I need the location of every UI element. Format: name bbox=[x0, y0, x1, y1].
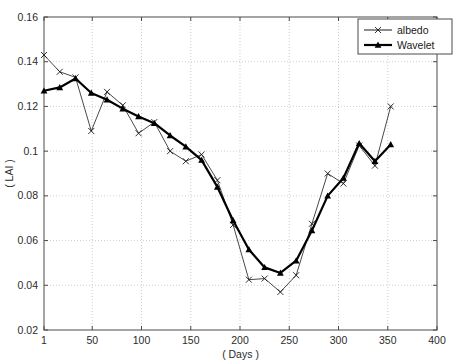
y-tick-label: 0.02 bbox=[18, 324, 39, 336]
legend-label-albedo: albedo bbox=[397, 24, 429, 36]
tick-labels: 1501001502002503003504000.020.040.060.08… bbox=[18, 11, 446, 347]
y-tick-label: 0.1 bbox=[23, 145, 38, 157]
y-tick-label: 0.06 bbox=[18, 234, 39, 246]
y-axis-title: ( LAI ) bbox=[3, 159, 15, 188]
x-tick-label: 400 bbox=[428, 334, 446, 346]
x-tick-label: 200 bbox=[231, 334, 249, 346]
axis-frame bbox=[44, 17, 437, 330]
chart-svg: 1501001502002503003504000.020.040.060.08… bbox=[0, 0, 457, 362]
x-axis-title: ( Days ) bbox=[222, 348, 259, 360]
y-tick-label: 0.04 bbox=[18, 279, 39, 291]
chart-figure: 1501001502002503003504000.020.040.060.08… bbox=[0, 0, 457, 362]
chart-legend: albedoWavelet bbox=[358, 19, 452, 54]
x-tick-label: 1 bbox=[41, 334, 47, 346]
series-albedo bbox=[41, 52, 394, 295]
x-tick-label: 50 bbox=[86, 334, 98, 346]
y-tick-label: 0.08 bbox=[18, 189, 39, 201]
x-tick-label: 300 bbox=[330, 334, 348, 346]
y-tick-label: 0.16 bbox=[18, 11, 39, 23]
grid-lines bbox=[44, 17, 437, 330]
x-tick-label: 250 bbox=[280, 334, 298, 346]
x-tick-label: 150 bbox=[182, 334, 200, 346]
y-tick-label: 0.12 bbox=[18, 100, 39, 112]
series-wavelet bbox=[41, 75, 395, 276]
y-tick-label: 0.14 bbox=[18, 55, 39, 67]
legend-label-wavelet: Wavelet bbox=[397, 39, 435, 51]
tick-marks bbox=[44, 17, 437, 330]
x-tick-label: 350 bbox=[379, 334, 397, 346]
x-tick-label: 100 bbox=[133, 334, 151, 346]
